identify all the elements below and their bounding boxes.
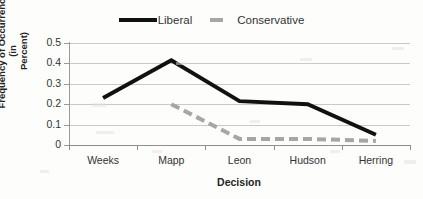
scan-artifact <box>392 47 404 50</box>
x-axis-tick-label: Weeks <box>69 154 137 166</box>
x-axis-tick-label: Leon <box>205 154 273 166</box>
chart-figure: Liberal Conservative Frequency of Occurr… <box>0 0 423 199</box>
scan-artifact <box>300 58 312 61</box>
scan-artifact <box>40 170 49 173</box>
x-axis-tick <box>69 145 70 150</box>
y-axis-tick <box>64 43 69 44</box>
chart-series-layer <box>69 43 410 146</box>
y-axis-tick-label: 0.1 <box>33 119 61 129</box>
x-axis-title: Decision <box>68 176 410 188</box>
scan-artifact <box>92 103 106 107</box>
scan-artifact <box>96 131 114 134</box>
x-axis-tick-label: Mapp <box>137 154 205 166</box>
series-line-liberal <box>103 60 376 134</box>
x-axis-tick <box>205 145 206 150</box>
y-axis-tick-label: 0.3 <box>33 78 61 88</box>
y-axis-title: Frequency of Occurrence (in Percent) <box>0 0 27 110</box>
scan-artifact <box>330 150 340 153</box>
y-axis-title-line1: Frequency of Occurrence (in <box>0 0 18 110</box>
y-axis-title-line2: Percent) <box>18 0 29 110</box>
y-axis-tick <box>64 63 69 64</box>
y-axis-tick-label: 0.4 <box>33 57 61 67</box>
chart-legend: Liberal Conservative <box>0 9 423 31</box>
legend-item-conservative: Conservative <box>210 9 304 31</box>
legend-line-solid-icon <box>119 18 157 22</box>
x-axis-tick <box>137 145 138 150</box>
legend-item-liberal: Liberal <box>119 9 193 31</box>
scan-artifact <box>176 62 186 65</box>
scan-artifact <box>152 150 162 153</box>
y-axis-tick <box>64 84 69 85</box>
x-axis-tick-label: Herring <box>342 154 410 166</box>
y-axis-tick <box>64 104 69 105</box>
y-axis-tick <box>64 125 69 126</box>
scan-artifact <box>404 160 416 164</box>
y-axis-tick-label: 0.5 <box>33 37 61 47</box>
scan-artifact <box>250 120 260 123</box>
legend-label-liberal: Liberal <box>158 14 193 26</box>
x-axis-tick <box>410 145 411 150</box>
legend-line-dashed-icon <box>210 18 223 22</box>
legend-label-conservative: Conservative <box>237 14 304 26</box>
x-axis-tick <box>274 145 275 150</box>
x-axis-tick-label: Hudson <box>274 154 342 166</box>
y-axis-tick-label: 0 <box>33 139 61 149</box>
y-axis-tick-label: 0.2 <box>33 98 61 108</box>
x-axis-tick <box>342 145 343 150</box>
